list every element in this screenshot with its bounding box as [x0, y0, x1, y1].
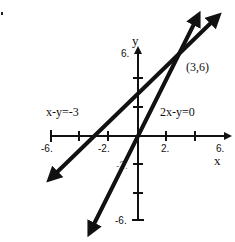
- y-tick-label-neg2: -2.: [116, 160, 128, 171]
- intersection-label: (3,6): [186, 60, 209, 74]
- y-axis-label: y: [132, 33, 139, 48]
- x-axis-arrow-icon: [224, 132, 232, 140]
- x-tick-label-neg2: -2.: [98, 143, 110, 154]
- line1-label: x-y=-3: [46, 105, 79, 119]
- x-tick-label-neg6: -6.: [41, 143, 53, 154]
- y-tick-label-neg6: -6.: [115, 215, 127, 226]
- y-tick-label-pos6: 6.: [121, 48, 129, 59]
- x-tick-label-pos6: 6.: [216, 143, 224, 154]
- x-axis-label: x: [214, 153, 221, 168]
- line2-label: 2x-y=0: [160, 105, 195, 119]
- x-tick-label-pos2: 2.: [161, 143, 169, 154]
- graph: y x -6. -2. 2. 6. 6. -2. -6. (3,6) x-y=-…: [0, 0, 235, 242]
